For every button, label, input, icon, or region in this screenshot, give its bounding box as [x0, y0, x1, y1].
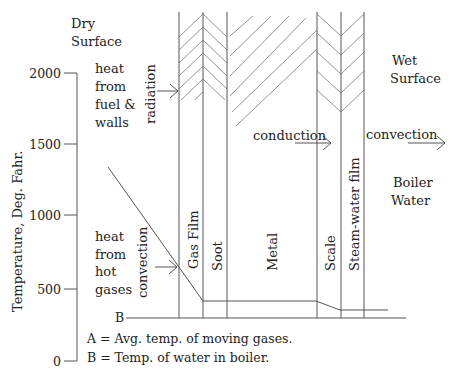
legend-b: B = Temp. of water in boiler. — [87, 350, 269, 365]
layer-label-soot: Soot — [210, 240, 225, 271]
dry-surface-label-2: Surface — [71, 34, 122, 49]
tick-1500: 1500 — [29, 137, 61, 152]
tick-2000: 2000 — [29, 66, 61, 81]
layer-label-metal: Metal — [265, 233, 280, 271]
wet-surface-label-2: Surface — [390, 71, 441, 86]
y-axis — [64, 73, 77, 361]
svg-text:heat: heat — [95, 61, 125, 76]
tick-1000: 1000 — [29, 208, 61, 223]
steam-film-hatch — [341, 14, 364, 112]
svg-text:hot: hot — [95, 264, 117, 279]
legend-a: A = Avg. temp. of moving gases. — [86, 331, 292, 346]
layer-boundaries — [179, 12, 364, 318]
layer-label-scale: Scale — [323, 235, 338, 271]
dry-surface-label: Dry — [71, 16, 96, 31]
layer-label-steam-water-film: Steam-water film — [347, 157, 362, 271]
svg-text:from: from — [95, 79, 126, 94]
radiation-label: radiation — [143, 64, 158, 124]
svg-text:walls: walls — [95, 115, 129, 130]
conduction-label: conduction — [253, 128, 327, 143]
convection-right-label: convection — [366, 127, 438, 142]
b-marker-label: B — [115, 310, 124, 325]
convection-arrow-icon — [155, 260, 177, 274]
soot-hatch — [203, 14, 227, 102]
heat-from-gases-label: heat from hot gases — [95, 229, 132, 297]
svg-text:fuel &: fuel & — [95, 97, 136, 112]
boiler-water-label: Boiler — [393, 175, 433, 190]
scale-hatch — [317, 14, 341, 112]
radiation-arrow-icon — [157, 84, 178, 98]
layer-label-gas-film: Gas Film — [186, 210, 201, 269]
svg-text:from: from — [95, 247, 126, 262]
wet-surface-label: Wet — [392, 53, 418, 68]
svg-text:gases: gases — [95, 282, 132, 297]
tick-0: 0 — [53, 354, 61, 369]
tick-500: 500 — [37, 282, 61, 297]
y-axis-ticks: 2000 1500 1000 500 0 — [29, 66, 61, 369]
boiler-water-label-2: Water — [391, 193, 431, 208]
heat-from-fuel-label: heat from fuel & walls — [95, 61, 136, 130]
gas-film-hatch — [179, 14, 203, 115]
convection-left-label: convection — [135, 226, 150, 298]
y-axis-title: Temperature, Deg. Fahr. — [10, 151, 25, 312]
heat-transfer-diagram: Dry Surface Wet Surface 2000 1500 1000 5… — [0, 0, 460, 381]
temperature-curve — [108, 167, 388, 310]
metal-hatch — [230, 16, 317, 126]
svg-text:heat: heat — [95, 229, 125, 244]
